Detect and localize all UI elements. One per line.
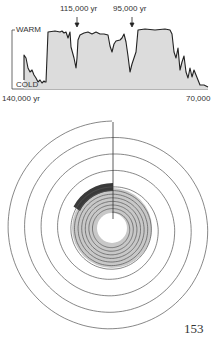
annotation-115000: 115,000 yr bbox=[60, 4, 97, 13]
page-number: 153 bbox=[184, 321, 204, 337]
x-start-label: 140,000 yr bbox=[2, 94, 40, 103]
cold-label: COLD bbox=[16, 80, 38, 89]
climate-chart bbox=[12, 17, 208, 89]
warm-label: WARM bbox=[16, 25, 41, 34]
spiral-diagram bbox=[8, 121, 208, 329]
center-hole bbox=[97, 213, 127, 243]
arrow-down-icon bbox=[75, 17, 79, 27]
arrow-down-icon bbox=[130, 17, 134, 27]
climate-area bbox=[24, 29, 208, 89]
figure-canvas bbox=[0, 0, 223, 347]
x-end-label: 70,000 bbox=[186, 94, 210, 103]
annotation-95000: 95,000 yr bbox=[113, 4, 146, 13]
